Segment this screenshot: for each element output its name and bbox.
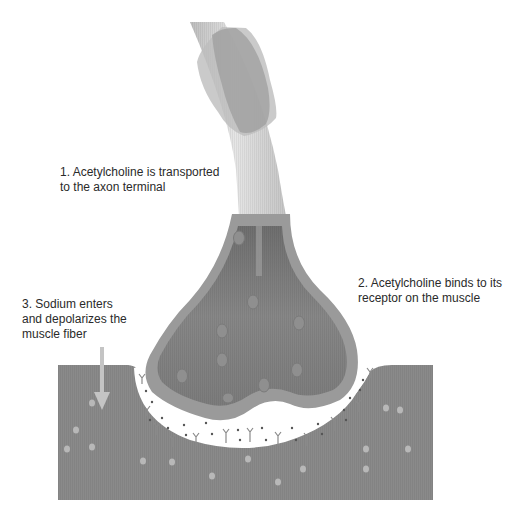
label-step-3-line-2: and depolarizes the [22, 312, 127, 327]
axon-terminal [145, 214, 357, 420]
label-step-2-line-2: receptor on the muscle [358, 291, 502, 306]
label-step-3: 3. Sodium enters and depolarizes the mus… [22, 297, 127, 342]
label-step-3-line-1: 3. Sodium enters [22, 297, 127, 312]
label-step-3-line-3: muscle fiber [22, 327, 127, 342]
label-step-1-line-2: to the axon terminal [60, 180, 219, 195]
label-step-1: 1. Acetylcholine is transported to the a… [60, 165, 219, 195]
label-step-2: 2. Acetylcholine binds to its receptor o… [358, 276, 502, 306]
myelin-sheath [197, 27, 276, 136]
label-step-2-line-1: 2. Acetylcholine binds to its [358, 276, 502, 291]
neuromuscular-junction-diagram [0, 0, 518, 528]
label-step-1-line-1: 1. Acetylcholine is transported [60, 165, 219, 180]
